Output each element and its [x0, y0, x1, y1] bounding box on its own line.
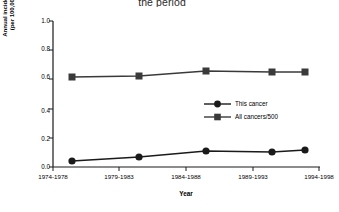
- data-point-marker: [203, 68, 210, 75]
- y-tick-label: 1.0: [30, 18, 50, 24]
- x-tick-label: 1994-1998: [293, 173, 339, 180]
- y-axis-title-line2: (per 100,000): [8, 0, 15, 66]
- data-point-marker: [136, 73, 143, 80]
- x-axis-title: Year: [53, 190, 319, 197]
- data-point-marker: [68, 157, 75, 164]
- data-point-marker: [301, 146, 308, 153]
- legend-label-this-cancer: This cancer: [235, 100, 268, 107]
- x-tick-label: 1984-1988: [160, 173, 212, 180]
- data-point-marker: [269, 69, 276, 76]
- data-point-marker: [135, 153, 142, 160]
- data-point-marker: [268, 148, 275, 155]
- y-tick-label: 0.4: [30, 108, 50, 114]
- y-tick-label: 0.0: [30, 164, 50, 170]
- y-axis-title: Annual incidence (per 100,000): [1, 0, 15, 66]
- legend-marker-square-icon: [214, 114, 221, 121]
- series-this-cancer: [68, 146, 308, 164]
- series-all-cancers: [69, 68, 309, 81]
- x-tick-label: 1979-1983: [93, 173, 145, 180]
- y-tick-label: 0.2: [30, 136, 50, 142]
- legend-swatches: [204, 101, 231, 121]
- data-point-marker: [69, 74, 76, 81]
- y-axis-tick-labels: 1.0 0.8 0.6 0.4 0.2 0.0: [28, 0, 50, 212]
- legend-marker-circle-icon: [214, 101, 221, 108]
- x-tick-label: 1989-1993: [227, 173, 279, 180]
- x-tick-label: 1974-1978: [27, 173, 79, 180]
- y-tick-label: 0.6: [30, 74, 50, 80]
- y-tick-label: 0.8: [30, 46, 50, 52]
- x-axis-ticks: [53, 167, 319, 171]
- data-point-marker: [302, 69, 309, 76]
- y-axis-title-line1: Annual incidence: [1, 0, 8, 66]
- legend-label-all-cancers: All cancers/500: [235, 113, 278, 120]
- data-point-marker: [202, 147, 209, 154]
